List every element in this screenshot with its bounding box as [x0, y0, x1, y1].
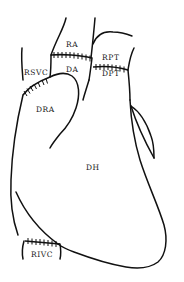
label-rsvc: RSVC	[24, 69, 48, 77]
recipient-pulmonary-trunk-right-wall	[128, 48, 134, 70]
svc-suture-ticks	[24, 79, 48, 97]
label-rivc: RIVC	[31, 251, 53, 259]
left-atrial-appendage-inner	[131, 106, 154, 158]
right-heart-border	[11, 95, 23, 235]
heart-diagram: RA DA RPT DPT RSVC DRA DH RIVC	[0, 0, 184, 282]
left-heart-border	[58, 100, 166, 268]
donor-pulmonary-trunk-right-wall	[128, 70, 130, 100]
inferior-inner-curve	[16, 192, 58, 244]
label-dh: DH	[86, 164, 100, 172]
donor-aorta-inner-curve	[83, 80, 89, 100]
recipient-ivc-right-wall	[60, 244, 61, 259]
recipient-ivc-left-wall	[22, 241, 24, 259]
recipient-pulmonary-trunk-top	[93, 32, 132, 44]
recipient-svc-left-wall	[22, 48, 23, 80]
recipient-aorta-left-wall	[51, 18, 66, 55]
label-da: DA	[66, 66, 79, 74]
label-rpt: RPT	[102, 54, 120, 62]
label-dpt: DPT	[102, 70, 120, 78]
label-dra: DRA	[36, 106, 55, 114]
donor-aorta-left-wall	[50, 55, 51, 77]
label-ra: RA	[66, 41, 78, 49]
recipient-aorta-right-wall	[91, 18, 95, 58]
heart-outline-svg	[0, 0, 184, 282]
